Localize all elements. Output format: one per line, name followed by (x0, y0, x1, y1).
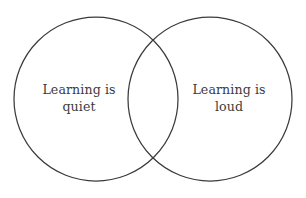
venn-label-left-line-2: quiet (20, 98, 138, 115)
venn-label-left: Learning is quiet (20, 81, 138, 115)
venn-diagram-figure: Learning is quiet Learning is loud (0, 0, 306, 198)
venn-label-right: Learning is loud (170, 81, 288, 115)
venn-label-right-line-2: loud (170, 98, 288, 115)
venn-label-left-line-1: Learning is (20, 81, 138, 98)
venn-label-right-line-1: Learning is (170, 81, 288, 98)
